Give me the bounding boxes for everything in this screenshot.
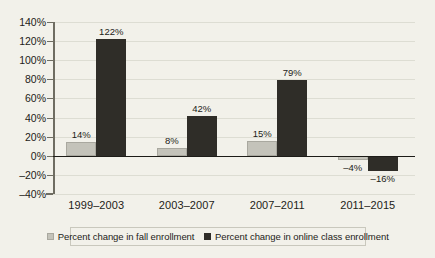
bar-chart: –40%–20%0%20%40%60%80%100%120%140% 14%12… — [0, 0, 435, 258]
gridline — [53, 194, 415, 195]
y-axis-bottom-tick — [46, 193, 53, 195]
bar — [187, 116, 217, 156]
bar — [277, 80, 307, 155]
legend-item: Percent change in fall enrollment — [47, 231, 194, 242]
legend-swatch-icon — [204, 233, 211, 240]
y-axis-tick — [47, 41, 53, 42]
y-axis-tick-label: 40% — [0, 112, 46, 124]
gridline — [53, 22, 415, 23]
bar — [157, 148, 187, 156]
y-axis-tick — [47, 60, 53, 61]
x-axis-category-label: 2011–2015 — [313, 199, 423, 211]
y-axis-tick — [47, 175, 53, 176]
bar-value-label: 79% — [269, 67, 315, 78]
y-axis-tick-label: –40% — [0, 188, 46, 200]
legend-swatch-icon — [47, 233, 54, 240]
bar — [66, 142, 96, 155]
y-axis-tick-label: 140% — [0, 16, 46, 28]
bar — [96, 39, 126, 156]
y-axis-tick-label: 0% — [0, 150, 46, 162]
y-axis-tick-label: 20% — [0, 131, 46, 143]
y-axis-tick — [47, 118, 53, 119]
legend-item: Percent change in online class enrollmen… — [204, 231, 388, 242]
legend-label: Percent change in online class enrollmen… — [215, 231, 389, 242]
y-axis-tick-label: 100% — [0, 54, 46, 66]
bar-value-label: 122% — [88, 26, 134, 37]
y-axis-tick-label: 80% — [0, 73, 46, 85]
y-axis-tick — [47, 79, 53, 80]
y-axis-tick — [47, 137, 53, 138]
bar-value-label: 42% — [179, 103, 225, 114]
y-axis-tick-label: 120% — [0, 35, 46, 47]
bar — [247, 141, 277, 155]
y-axis-line — [53, 22, 55, 194]
y-axis-tick-label: –20% — [0, 169, 46, 181]
zero-line — [53, 156, 415, 158]
y-axis-tick — [47, 22, 53, 23]
y-axis-tick-label: 60% — [0, 92, 46, 104]
legend-label: Percent change in fall enrollment — [58, 231, 195, 242]
bar-value-label: –16% — [360, 173, 406, 184]
bar — [368, 156, 398, 171]
chart-legend: Percent change in fall enrollmentPercent… — [70, 227, 366, 246]
y-axis-tick — [47, 98, 53, 99]
